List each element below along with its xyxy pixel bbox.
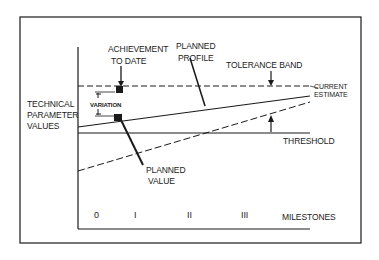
planned-value-label-2: VALUE <box>148 176 175 186</box>
planned-value-label-1: PLANNED <box>146 165 185 175</box>
y-axis-label-1: TECHNICAL <box>27 99 74 109</box>
planned-profile-pointer <box>190 58 205 106</box>
milestone-0: 0 <box>94 210 99 220</box>
current-estimate-label-2: ESTIMATE <box>314 91 348 99</box>
planned-profile-label-2: PROFILE <box>178 53 214 63</box>
y-axis-label-3: VALUES <box>27 121 59 131</box>
x-axis-label: MILESTONES <box>282 212 336 222</box>
planned-value-marker <box>114 114 122 121</box>
threshold-label: THRESHOLD <box>283 136 335 146</box>
achievement-label-1: ACHIEVEMENT <box>108 44 168 54</box>
tolerance-band-label: TOLERANCE BAND <box>226 60 302 70</box>
variation-label: VARIATION <box>90 100 121 110</box>
milestone-2: II <box>187 210 192 220</box>
planned-profile-label-1: PLANNED <box>176 41 215 51</box>
y-axis-label-2: PARAMETER <box>27 110 78 120</box>
current-estimate-label-1: CURRENT <box>314 83 348 91</box>
achievement-label-2: TO DATE <box>111 56 146 66</box>
planned-value-pointer <box>121 120 143 165</box>
milestone-3: III <box>241 210 248 220</box>
arrow-down-icon <box>268 80 274 86</box>
milestone-1: I <box>134 210 136 220</box>
current-estimate-line <box>78 102 310 171</box>
achievement-marker <box>116 86 123 93</box>
arrow-up-icon <box>268 115 274 122</box>
